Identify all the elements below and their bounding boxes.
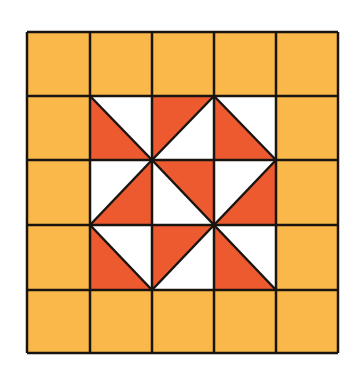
border-cell	[276, 32, 338, 96]
quilt-grid	[0, 0, 354, 371]
border-cell	[276, 160, 338, 225]
border-cell	[27, 32, 90, 96]
quilt-diagram	[0, 0, 354, 371]
border-cell	[27, 160, 90, 225]
border-cell	[152, 290, 214, 353]
border-cell	[214, 32, 276, 96]
border-cell	[90, 32, 152, 96]
border-cell	[27, 290, 90, 353]
border-cell	[276, 96, 338, 160]
border-cell	[276, 290, 338, 353]
border-cell	[27, 225, 90, 290]
border-cell	[152, 32, 214, 96]
border-cell	[90, 290, 152, 353]
border-cell	[214, 290, 276, 353]
border-cell	[27, 96, 90, 160]
border-cell	[276, 225, 338, 290]
